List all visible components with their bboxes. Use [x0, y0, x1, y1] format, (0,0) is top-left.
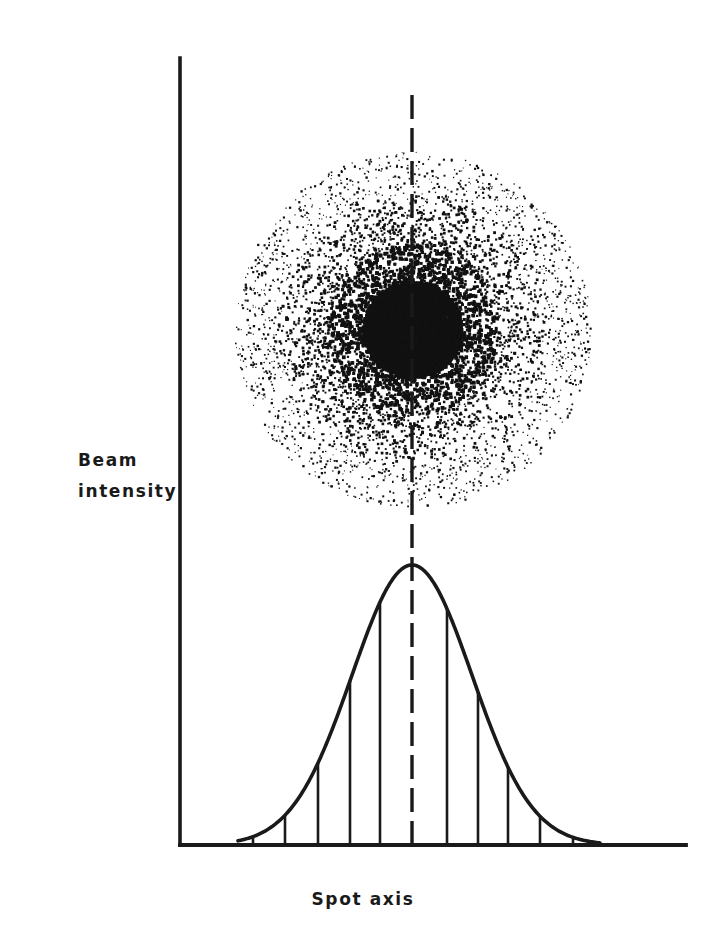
- x-axis-label-text: Spot axis: [312, 889, 415, 909]
- y-axis-label-line1: Beam: [78, 450, 138, 470]
- y-axis-label: Beamintensity: [78, 445, 177, 507]
- y-axis-label-line2: intensity: [78, 481, 177, 501]
- beam-profile-figure: Beamintensity Spot axis: [0, 0, 726, 944]
- x-axis-label: Spot axis: [0, 884, 726, 915]
